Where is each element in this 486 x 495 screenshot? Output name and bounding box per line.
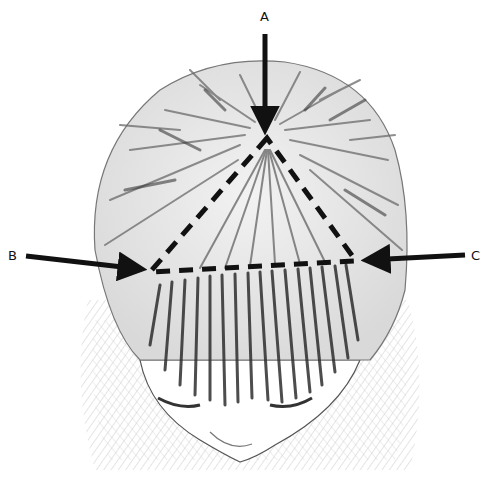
hair-sectioning-illustration: A B C	[0, 0, 486, 495]
hair	[94, 61, 407, 405]
label-b: B	[8, 249, 17, 262]
label-a: A	[260, 10, 269, 23]
label-c: C	[471, 249, 480, 262]
head-drawing	[0, 0, 486, 495]
